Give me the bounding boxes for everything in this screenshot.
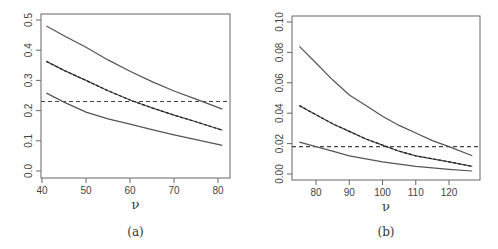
series-line-middle-dashed — [299, 106, 472, 167]
y-tick-label: 0.2 — [23, 103, 34, 117]
y-tick-label: 0.08 — [274, 42, 285, 62]
series-line-middle-dashed — [46, 61, 222, 130]
x-tick-label: 80 — [212, 185, 224, 196]
x-tick-label: 70 — [168, 185, 180, 196]
series-line-upper — [46, 26, 222, 109]
series-line-middle — [299, 106, 472, 167]
x-tick-label: 110 — [408, 187, 424, 198]
y-tick-label: 0.10 — [274, 12, 285, 32]
x-tick-label: 80 — [310, 187, 322, 198]
y-tick-label: 0.06 — [274, 73, 285, 93]
x-tick-label: 50 — [80, 185, 92, 196]
y-tick-label: 0.0 — [23, 164, 34, 178]
x-tick-label: 120 — [441, 187, 458, 198]
y-tick-label: 0.1 — [23, 133, 34, 147]
x-tick-label: 60 — [124, 185, 136, 196]
x-axis-label: ν — [382, 199, 390, 214]
y-tick-label: 0.4 — [23, 43, 34, 57]
x-tick-label: 40 — [36, 185, 48, 196]
plot-frame — [292, 16, 480, 180]
series-line-upper — [299, 46, 472, 156]
x-axis-label: ν — [132, 197, 140, 212]
series-line-lower — [46, 93, 222, 145]
panel-caption: (a) — [127, 225, 144, 239]
x-tick-label: 100 — [374, 187, 391, 198]
y-tick-label: 0.02 — [274, 133, 285, 153]
chart-panel-a: 0.00.10.20.30.40.54050607080ν(a) — [23, 13, 230, 239]
panel-caption: (b) — [377, 225, 394, 239]
x-tick-label: 90 — [344, 187, 356, 198]
y-tick-label: 0.04 — [274, 103, 285, 123]
y-tick-label: 0.5 — [23, 13, 34, 27]
y-tick-label: 0.3 — [23, 73, 34, 87]
figure: 0.00.10.20.30.40.54050607080ν(a) 0.000.0… — [0, 0, 498, 249]
series-line-middle — [46, 61, 222, 130]
chart-panel-b: 0.000.020.040.060.080.108090100110120ν(b… — [274, 12, 480, 239]
y-tick-label: 0.00 — [274, 164, 285, 184]
